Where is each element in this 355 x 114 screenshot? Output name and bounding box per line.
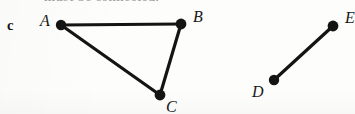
graph-vertex-a <box>56 20 66 30</box>
graph-vertex-c <box>155 90 166 101</box>
edges-group <box>61 24 333 95</box>
graph-figure: must be connected. c ABCDE <box>0 0 355 114</box>
graph-edge-bc <box>160 24 181 95</box>
graph-edge-ac <box>61 25 160 95</box>
graph-edge-de <box>274 26 333 80</box>
vertex-label-b: B <box>193 9 203 25</box>
graph-vertex-d <box>269 75 279 85</box>
graph-vertex-b <box>176 19 187 30</box>
vertex-label-d: D <box>252 84 264 100</box>
graph-edge-ab <box>61 24 181 25</box>
vertex-label-c: C <box>166 99 177 114</box>
vertex-label-e: E <box>345 10 355 26</box>
graph-vertex-e <box>328 21 339 32</box>
vertex-label-a: A <box>40 13 50 29</box>
graph-canvas <box>0 0 355 114</box>
